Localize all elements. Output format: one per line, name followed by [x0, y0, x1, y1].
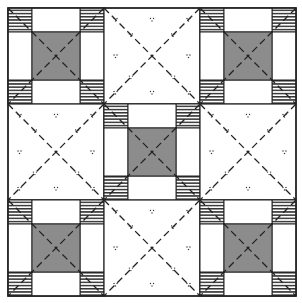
- dot: [90, 187, 91, 188]
- dot: [115, 93, 116, 94]
- dot: [113, 91, 114, 92]
- dot: [282, 187, 283, 188]
- dot: [189, 283, 190, 284]
- striped-corner-square: [200, 80, 224, 104]
- dot: [247, 116, 248, 117]
- dot: [54, 187, 55, 188]
- dot: [186, 210, 187, 211]
- dot: [33, 171, 34, 172]
- nine-patch-block: [200, 8, 296, 104]
- dot: [116, 54, 117, 55]
- dot: [150, 210, 151, 211]
- dot: [75, 129, 76, 130]
- dot: [151, 285, 152, 286]
- dot: [76, 174, 77, 175]
- dot: [153, 18, 154, 19]
- dot: [228, 171, 229, 172]
- dot: [249, 114, 250, 115]
- dot: [75, 171, 76, 172]
- dot: [151, 93, 152, 94]
- dot: [174, 75, 175, 76]
- dot: [284, 189, 285, 190]
- white-edge-rect: [272, 224, 296, 272]
- plain-block: [200, 104, 296, 200]
- dot: [172, 270, 173, 271]
- dot: [171, 267, 172, 268]
- dot: [171, 33, 172, 34]
- dot: [186, 91, 187, 92]
- dot: [17, 187, 18, 188]
- dot: [226, 174, 227, 175]
- dot: [284, 153, 285, 154]
- dot: [246, 114, 247, 115]
- white-edge-rect: [200, 224, 224, 272]
- dot: [249, 187, 250, 188]
- dot: [267, 129, 268, 130]
- dot: [130, 78, 131, 79]
- white-edge-rect: [272, 32, 296, 80]
- dot: [285, 187, 286, 188]
- dot: [36, 171, 37, 172]
- dot: [116, 91, 117, 92]
- nine-patch-block: [104, 104, 200, 200]
- dot: [228, 129, 229, 130]
- striped-corner-square: [80, 272, 104, 296]
- dot: [212, 150, 213, 151]
- plain-block: [104, 8, 200, 104]
- white-edge-rect: [80, 224, 104, 272]
- white-edge-rect: [32, 272, 80, 296]
- dot: [151, 212, 152, 213]
- dot: [57, 114, 58, 115]
- dot: [115, 285, 116, 286]
- dot: [212, 187, 213, 188]
- dot: [186, 246, 187, 247]
- striped-corner-square: [80, 80, 104, 104]
- striped-corner-square: [200, 272, 224, 296]
- white-edge-rect: [224, 200, 272, 224]
- dot: [17, 150, 18, 151]
- dot: [246, 187, 247, 188]
- dot: [150, 18, 151, 19]
- dot: [93, 150, 94, 151]
- dot: [151, 20, 152, 21]
- dot: [153, 210, 154, 211]
- dot: [34, 174, 35, 175]
- dot: [20, 114, 21, 115]
- dot: [92, 189, 93, 190]
- dot: [55, 116, 56, 117]
- dot: [171, 225, 172, 226]
- dot: [150, 283, 151, 284]
- dot: [188, 93, 189, 94]
- dot: [186, 54, 187, 55]
- dot: [172, 78, 173, 79]
- plain-block: [104, 200, 200, 296]
- dot: [78, 171, 79, 172]
- dot: [188, 285, 189, 286]
- dot: [90, 114, 91, 115]
- white-edge-rect: [176, 128, 200, 176]
- dot: [171, 75, 172, 76]
- dot: [267, 171, 268, 172]
- dot: [130, 270, 131, 271]
- white-edge-rect: [32, 200, 80, 224]
- dot: [212, 114, 213, 115]
- dot: [115, 249, 116, 250]
- dot: [211, 189, 212, 190]
- dot: [132, 33, 133, 34]
- white-edge-rect: [128, 104, 176, 128]
- dot: [282, 150, 283, 151]
- dot: [188, 57, 189, 58]
- dot: [211, 153, 212, 154]
- white-edge-rect: [104, 128, 128, 176]
- dot: [174, 267, 175, 268]
- dot: [115, 57, 116, 58]
- dot: [116, 246, 117, 247]
- striped-corner-square: [272, 272, 296, 296]
- dot: [150, 91, 151, 92]
- striped-corner-square: [8, 272, 32, 296]
- dot: [57, 187, 58, 188]
- nine-patch-block: [8, 8, 104, 104]
- dot: [189, 91, 190, 92]
- plain-block: [8, 104, 104, 200]
- dot: [285, 150, 286, 151]
